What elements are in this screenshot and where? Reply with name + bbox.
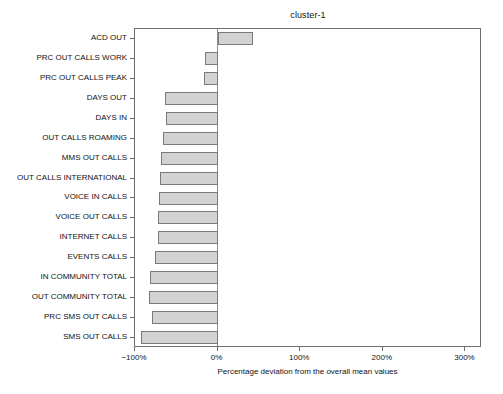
x-axis-tick-mark: [464, 347, 465, 351]
bar[interactable]: [155, 251, 218, 264]
y-axis-tick-label: INTERNET CALLS: [0, 232, 128, 241]
y-axis-tick-label: DAYS OUT: [0, 93, 128, 102]
bar-row: [135, 208, 480, 228]
y-axis-tick-mark: [130, 178, 134, 179]
bar-row: [135, 328, 480, 348]
bar-row: [135, 109, 480, 129]
bar-row: [135, 29, 480, 49]
y-axis-tick-label: OUT CALLS ROAMING: [0, 133, 128, 142]
y-axis-tick-mark: [130, 217, 134, 218]
y-axis-tick-mark: [130, 38, 134, 39]
bar-row: [135, 288, 480, 308]
bar[interactable]: [152, 311, 217, 324]
bar[interactable]: [161, 152, 217, 165]
y-axis-tick-mark: [130, 118, 134, 119]
x-axis-tick-label: −100%: [121, 353, 146, 363]
plot-area: [134, 28, 481, 347]
x-axis-tick-mark: [382, 347, 383, 351]
bar[interactable]: [205, 52, 217, 65]
y-axis-tick-label: OUT COMMUNITY TOTAL: [0, 292, 128, 301]
bar[interactable]: [149, 291, 218, 304]
bar-row: [135, 189, 480, 209]
bar[interactable]: [204, 72, 218, 85]
bar[interactable]: [160, 172, 218, 185]
y-axis-tick-mark: [130, 98, 134, 99]
y-axis-tick-label: VOICE OUT CALLS: [0, 212, 128, 221]
x-axis-tick-label: 200%: [372, 353, 392, 363]
y-axis-tick-label: ACD OUT: [0, 33, 128, 42]
y-axis-tick-label: SMS OUT CALLS: [0, 332, 128, 341]
y-axis-tick-label: PRC OUT CALLS WORK: [0, 53, 128, 62]
x-axis-tick-label: 100%: [289, 353, 309, 363]
chart-title: cluster-1: [134, 10, 482, 20]
x-axis-tick-mark: [299, 347, 300, 351]
y-axis-tick-mark: [130, 58, 134, 59]
x-axis-tick-mark: [217, 347, 218, 351]
y-axis-tick-label: OUT CALLS INTERNATIONAL: [0, 173, 128, 182]
y-axis-tick-mark: [130, 297, 134, 298]
bar[interactable]: [158, 211, 217, 224]
bar-row: [135, 228, 480, 248]
x-axis-title: Percentage deviation from the overall me…: [134, 367, 481, 376]
y-axis-tick-label: PRC OUT CALLS PEAK: [0, 73, 128, 82]
bar-row: [135, 308, 480, 328]
bar-row: [135, 89, 480, 109]
y-axis-tick-mark: [130, 277, 134, 278]
y-axis-tick-label: VOICE IN CALLS: [0, 192, 128, 201]
y-axis-tick-mark: [130, 317, 134, 318]
bar-row: [135, 248, 480, 268]
y-axis-tick-label: MMS OUT CALLS: [0, 153, 128, 162]
y-axis-tick-mark: [130, 158, 134, 159]
x-axis-tick-mark: [134, 347, 135, 351]
y-axis-tick-mark: [130, 78, 134, 79]
bar[interactable]: [163, 132, 218, 145]
y-axis-tick-mark: [130, 197, 134, 198]
y-axis-tick-mark: [130, 257, 134, 258]
bar[interactable]: [218, 32, 254, 45]
bars-layer: [135, 29, 480, 346]
bar[interactable]: [150, 271, 218, 284]
bar-chart: cluster-1 ACD OUTPRC OUT CALLS WORKPRC O…: [0, 0, 503, 394]
bar-row: [135, 49, 480, 69]
y-axis-tick-mark: [130, 237, 134, 238]
bar-row: [135, 129, 480, 149]
bar[interactable]: [165, 92, 218, 105]
y-axis-tick-label: EVENTS CALLS: [0, 252, 128, 261]
bar[interactable]: [158, 231, 217, 244]
y-axis-tick-label: DAYS IN: [0, 113, 128, 122]
bar-row: [135, 149, 480, 169]
bar[interactable]: [166, 112, 218, 125]
y-axis-category-labels: ACD OUTPRC OUT CALLS WORKPRC OUT CALLS P…: [0, 28, 128, 347]
bar-row: [135, 169, 480, 189]
y-axis-tick-label: IN COMMUNITY TOTAL: [0, 272, 128, 281]
bar-row: [135, 268, 480, 288]
y-axis-tick-label: PRC SMS OUT CALLS: [0, 312, 128, 321]
x-axis-tick-label: 0%: [211, 353, 223, 363]
x-axis-tick-label: 300%: [454, 353, 474, 363]
bar[interactable]: [141, 331, 218, 344]
y-axis-tick-mark: [130, 138, 134, 139]
y-axis-tick-mark: [130, 337, 134, 338]
bar-row: [135, 69, 480, 89]
bar[interactable]: [159, 192, 218, 205]
